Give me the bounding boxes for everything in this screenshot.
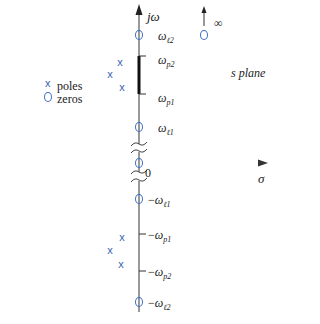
jw-axis-label: jω [147, 10, 160, 23]
jw-arrow-icon [136, 4, 143, 15]
zero-wl1-pos-icon [135, 122, 143, 132]
pole-icon: x [117, 57, 123, 68]
pole-icon: x [107, 245, 113, 256]
freq-label-wp1-neg: −ωp1 [148, 229, 171, 244]
legend-zeros-label: zeros [57, 93, 82, 105]
origin-label: 0 [145, 167, 151, 179]
s-plane-text: s plane [231, 66, 265, 80]
legend-pole-icon: x [45, 78, 51, 89]
zero-origin-icon [135, 158, 143, 168]
freq-label-wl1-neg: −ωℓ1 [148, 194, 171, 209]
sigma-axis-label: σ [258, 172, 264, 185]
zero-infinity-icon [200, 30, 208, 40]
freq-label-wl2-neg: −ωℓ2 [148, 297, 171, 312]
freq-label-wp2-pos: ωp2 [158, 54, 174, 69]
pole-icon: x [107, 69, 113, 80]
sigma-arrow-icon [258, 160, 268, 167]
infinity-label: ∞ [214, 17, 223, 29]
passband-segment [139, 56, 146, 94]
axis-break-upper-icon [131, 142, 147, 153]
legend-poles-label: poles [57, 80, 82, 92]
pole-icon: x [119, 82, 125, 93]
zero-wl1-neg-icon [135, 194, 143, 204]
freq-label-wp1-pos: ωp1 [158, 92, 174, 107]
pole-icon: x [119, 232, 125, 243]
freq-label-wl2-pos: ωℓ2 [158, 30, 174, 45]
infinity-arrow-icon [202, 6, 207, 26]
s-plane-label: s plane [231, 67, 265, 79]
freq-label-wp2-neg: −ωp2 [148, 266, 171, 281]
freq-label-wl1-pos: ωℓ1 [158, 122, 174, 137]
zero-wl2-pos-icon [135, 30, 143, 40]
zero-wl2-neg-icon [135, 297, 143, 307]
legend-zero-icon [44, 92, 52, 102]
pole-icon: x [118, 259, 124, 270]
negative-passband-ticks [139, 234, 146, 271]
